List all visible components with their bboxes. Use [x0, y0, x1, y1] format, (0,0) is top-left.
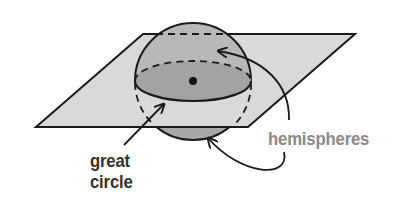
center-point [189, 77, 197, 85]
hemispheres-label: hemispheres [268, 129, 369, 148]
great-circle-label-line2: circle [90, 172, 133, 191]
great-circle-label-line1: great [90, 151, 130, 170]
sphere-plane-diagram [0, 0, 412, 200]
